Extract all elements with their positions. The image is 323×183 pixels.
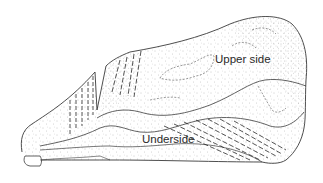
hock-nub (24, 156, 41, 166)
label-upper-side: Upper side (215, 54, 271, 66)
meat-cut-diagram: Upper side Underside (0, 0, 323, 183)
label-underside: Underside (142, 134, 194, 146)
meat-cut-drawing (0, 0, 323, 183)
